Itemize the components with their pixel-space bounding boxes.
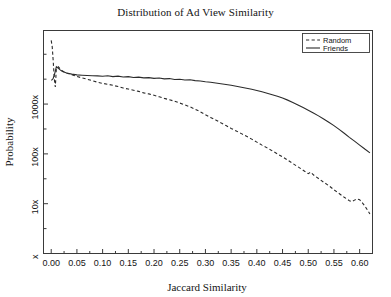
- x-tick-label: 0.60: [351, 258, 369, 268]
- x-tick-label: 0.30: [197, 258, 215, 268]
- y-tick-label: 10x: [31, 199, 41, 214]
- x-tick-label: 0.35: [222, 258, 240, 268]
- y-axis-ticks: [44, 54, 49, 253]
- x-tick-label: 0.55: [325, 258, 343, 268]
- chart-legend[interactable]: Random Friends: [303, 34, 370, 53]
- x-tick-label: 0.50: [299, 258, 317, 268]
- data-series-group: [51, 40, 370, 214]
- x-tick-label: 0.05: [68, 258, 86, 268]
- x-axis-title: Jaccard Similarity: [167, 281, 247, 293]
- x-tick-label: 0.40: [248, 258, 266, 268]
- series-line-random: [51, 40, 370, 214]
- y-axis-tick-labels: x10x100x1000x: [31, 95, 41, 259]
- x-tick-label: 0.15: [120, 258, 138, 268]
- x-tick-label: 0.00: [42, 258, 60, 268]
- plot-frame: [44, 31, 373, 254]
- x-tick-label: 0.45: [274, 258, 292, 268]
- x-tick-label: 0.25: [171, 258, 189, 268]
- y-tick-label: 100x: [31, 147, 41, 167]
- x-axis-ticks: [51, 249, 359, 254]
- legend-label-friends: Friends: [323, 44, 348, 53]
- series-line-friends: [51, 67, 370, 153]
- y-axis-title: Probability: [3, 117, 15, 166]
- x-axis-tick-labels: 0.000.050.100.150.200.250.300.350.400.45…: [42, 258, 368, 268]
- x-tick-label: 0.20: [145, 258, 163, 268]
- plot-canvas: 0.000.050.100.150.200.250.300.350.400.45…: [0, 0, 391, 297]
- y-tick-label: 1000x: [31, 95, 41, 120]
- x-tick-label: 0.10: [94, 258, 112, 268]
- y-tick-label: x: [31, 254, 41, 259]
- chart-figure: Distribution of Ad View Similarity 0.000…: [0, 0, 391, 297]
